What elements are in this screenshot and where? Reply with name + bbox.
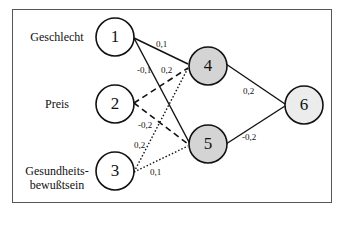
edge-4-6 — [226, 64, 285, 104]
weight-1-4: 0,1 — [156, 39, 167, 49]
weight-4-6: 0,2 — [243, 86, 254, 96]
input-label-geschlecht: Geschlecht — [22, 30, 92, 44]
weight-3-5: 0,1 — [150, 167, 161, 177]
input-label-preis: Preis — [22, 97, 92, 111]
weight-1-5: -0,1 — [137, 65, 151, 75]
node-4-number: 4 — [198, 57, 218, 75]
node-3-number: 3 — [105, 162, 125, 180]
weight-5-6: -0,2 — [242, 132, 256, 142]
weight-2-5: -0,2 — [138, 120, 152, 130]
node-1-number: 1 — [105, 28, 125, 46]
weight-2-4: 0,2 — [161, 65, 172, 75]
input-label-gesundheit-line1: Gesundheits- — [17, 164, 97, 178]
input-label-gesundheit-line2: bewußtsein — [17, 178, 97, 192]
node-5-number: 5 — [198, 135, 218, 153]
node-6-number: 6 — [294, 96, 314, 114]
node-2-number: 2 — [105, 95, 125, 113]
weight-3-4: 0,2 — [134, 140, 145, 150]
